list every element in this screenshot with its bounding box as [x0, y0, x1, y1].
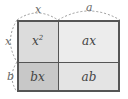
outer-border: [17, 20, 120, 92]
vertical-divider: [58, 20, 59, 92]
horizontal-divider: [17, 62, 120, 63]
left-label-x: x: [5, 36, 11, 47]
top-label-a: a: [86, 2, 93, 13]
top-label-x: x: [35, 4, 41, 15]
left-label-b: b: [7, 71, 14, 82]
area-model-diagram: x2 ax bx ab x a x b: [0, 0, 128, 99]
